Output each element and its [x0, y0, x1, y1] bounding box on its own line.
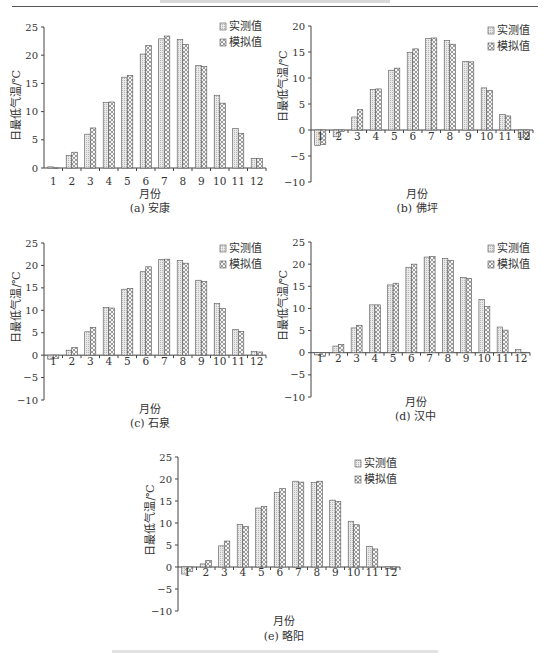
bar-simulated — [298, 482, 304, 567]
figure-caption-faint — [112, 650, 438, 653]
x-tick-label: 2 — [202, 566, 209, 578]
x-tick-label: 7 — [295, 566, 302, 578]
x-tick-label: 11 — [366, 566, 379, 578]
x-tick-label: 6 — [276, 566, 283, 578]
bar-simulated — [317, 481, 323, 567]
bar-simulated — [280, 489, 286, 567]
x-tick-label: 10 — [347, 566, 360, 578]
bar-observed — [237, 524, 243, 567]
legend-swatch-simulated — [355, 476, 361, 483]
bar-simulated — [335, 501, 341, 567]
bar-simulated — [372, 549, 378, 567]
bar-observed — [348, 521, 354, 567]
x-tick-label: 9 — [332, 566, 339, 578]
y-tick-label: −5 — [157, 584, 172, 595]
bar-observed — [219, 546, 225, 567]
bar-observed — [274, 493, 280, 567]
bar-observed — [330, 500, 336, 567]
y-tick-label: 10 — [159, 518, 172, 529]
bar-simulated — [354, 525, 360, 567]
y-tick-label: 5 — [166, 540, 172, 551]
x-tick-label: 12 — [384, 566, 397, 578]
y-tick-label: 0 — [166, 562, 172, 573]
bar-observed — [311, 483, 317, 567]
x-axis-label: 月份 — [273, 615, 295, 628]
y-tick-label: 25 — [159, 452, 172, 463]
bar-simulated — [243, 527, 249, 567]
x-tick-label: 1 — [184, 566, 191, 578]
bar-observed — [367, 546, 373, 567]
y-axis-label: 日最低气温/℃ — [143, 484, 157, 555]
y-tick-label: −10 — [151, 606, 172, 617]
legend-label-simulated: 模拟值 — [364, 472, 397, 486]
legend-swatch-observed — [355, 460, 361, 467]
x-tick-label: 4 — [239, 566, 246, 578]
y-tick-label: 20 — [159, 474, 172, 485]
x-tick-label: 3 — [221, 566, 228, 578]
bar-observed — [256, 508, 262, 567]
legend-label-observed: 实测值 — [364, 456, 397, 470]
bar-observed — [293, 481, 299, 567]
chart-caption: (e) 略阳 — [264, 629, 305, 643]
x-tick-label: 5 — [258, 566, 265, 578]
x-tick-label: 8 — [313, 566, 320, 578]
bar-simulated — [224, 541, 230, 567]
chart-e-lueyang: −10−50510152025123456789101112日最低气温/℃月份(… — [0, 0, 550, 657]
bar-simulated — [261, 506, 267, 567]
y-tick-label: 15 — [159, 496, 172, 507]
